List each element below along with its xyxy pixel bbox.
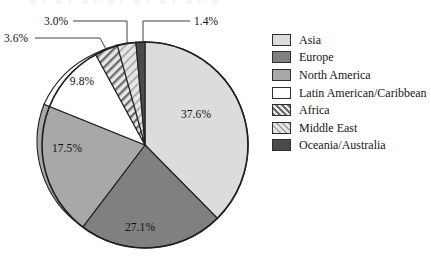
legend-label-latin-america: Latin American/Caribbean xyxy=(299,87,427,99)
slice-label-asia: 37.6% xyxy=(181,108,212,120)
legend-swatch-north-america xyxy=(272,69,291,81)
pie-chart-svg: 37.6% 27.1% 17.5% 9.8% 3.6% 3.0% 1.4% xyxy=(0,0,272,263)
legend-swatch-latin-america xyxy=(272,87,291,99)
legend-swatch-oceania-australia xyxy=(272,139,291,151)
legend-item-oceania-australia[interactable]: Oceania/Australia xyxy=(272,137,431,155)
slice-label-oceania-australia: 1.4% xyxy=(194,15,218,27)
slice-label-latin-america: 9.8% xyxy=(70,75,95,87)
legend-swatch-europe xyxy=(272,51,291,63)
legend-item-latin-america[interactable]: Latin American/Caribbean xyxy=(272,84,431,102)
slice-label-middle-east: 3.0% xyxy=(44,15,68,27)
legend-label-oceania-australia: Oceania/Australia xyxy=(299,139,386,151)
legend-item-africa[interactable]: Africa xyxy=(272,101,431,119)
legend-swatch-asia xyxy=(272,34,291,46)
slice-label-africa: 3.6% xyxy=(4,32,28,44)
slice-label-north-america: 17.5% xyxy=(52,142,83,154)
legend-swatch-africa xyxy=(272,104,291,116)
legend-label-asia: Asia xyxy=(299,34,321,46)
leader-line-oceania xyxy=(143,21,190,42)
legend-label-africa: Africa xyxy=(299,104,330,116)
legend-swatch-middle-east xyxy=(272,122,291,134)
chart-legend: Asia Europe North America Latin American… xyxy=(272,31,431,154)
legend-label-europe: Europe xyxy=(299,51,334,63)
legend-item-europe[interactable]: Europe xyxy=(272,49,431,67)
pie-chart-figure: 37.6% 27.1% 17.5% 9.8% 3.6% 3.0% 1.4% As… xyxy=(0,0,431,263)
slice-label-europe: 27.1% xyxy=(125,221,156,233)
legend-label-middle-east: Middle East xyxy=(299,122,357,134)
legend-item-asia[interactable]: Asia xyxy=(272,31,431,49)
legend-item-middle-east[interactable]: Middle East xyxy=(272,119,431,137)
legend-label-north-america: North America xyxy=(299,69,371,81)
legend-item-north-america[interactable]: North America xyxy=(272,66,431,84)
leader-line-africa xyxy=(35,38,106,49)
leader-line-middle-east xyxy=(73,21,127,44)
